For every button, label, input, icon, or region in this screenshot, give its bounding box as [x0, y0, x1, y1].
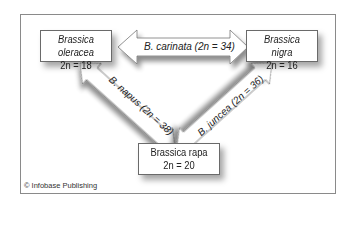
- node-oleracea-name: Brassica oleracea: [51, 33, 100, 59]
- node-rapa-chromosomes: 2n = 20: [150, 159, 208, 172]
- node-oleracea-chromosomes: 2n = 18: [51, 59, 100, 72]
- node-nigra-chromosomes: 2n = 16: [257, 59, 306, 72]
- node-rapa: Brassica rapa 2n = 20: [138, 143, 220, 175]
- node-nigra: Brassica nigra 2n = 16: [246, 30, 318, 62]
- node-nigra-name: Brassica nigra: [257, 33, 306, 59]
- carinata-label: B. carinata (2n = 34): [144, 41, 235, 52]
- publisher-credit: © Infobase Publishing: [24, 181, 97, 190]
- node-oleracea: Brassica oleracea 2n = 18: [40, 30, 112, 62]
- node-rapa-name: Brassica rapa: [150, 146, 208, 159]
